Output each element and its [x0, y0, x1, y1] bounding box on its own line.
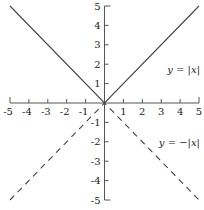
chart: -5-4-3-2-11234554321-1-2-3-4-5 y = |x| y…: [0, 0, 204, 210]
x-tick-label: 5: [196, 106, 202, 117]
y-tick-label: 3: [94, 39, 100, 50]
x-tick-label: 2: [139, 106, 145, 117]
x-tick-label: 4: [177, 106, 183, 117]
y-tick-label: 4: [94, 20, 100, 31]
x-tick-label: 3: [158, 106, 164, 117]
plot-area: -5-4-3-2-11234554321-1-2-3-4-5 y = |x| y…: [0, 0, 204, 210]
x-tick-label: -3: [41, 106, 51, 117]
y-tick-label: -3: [91, 156, 101, 167]
y-tick-label: -4: [91, 175, 101, 186]
x-tick-label: -2: [60, 106, 70, 117]
y-tick-label: 5: [94, 1, 100, 12]
y-tick-label: 2: [94, 59, 100, 70]
y-tick-label: -2: [91, 136, 101, 147]
label-abs: y = |x|: [166, 64, 200, 76]
x-tick-label: -5: [3, 106, 13, 117]
x-tick-label: -1: [79, 106, 89, 117]
y-tick-label: 1: [94, 78, 100, 89]
x-tick-label: -4: [22, 106, 32, 117]
x-tick-label: 1: [120, 106, 126, 117]
y-tick-label: -1: [91, 117, 101, 128]
y-tick-label: -5: [91, 195, 101, 206]
label-neg-abs: y = −|x|: [158, 137, 200, 149]
